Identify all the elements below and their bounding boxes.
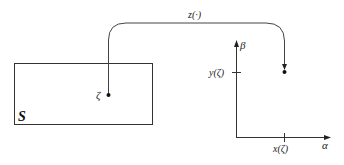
x-tick-label: x(ζ): [272, 143, 289, 155]
set-label: S: [18, 109, 26, 124]
mapping-arrow: [109, 23, 285, 95]
y-tick-label: y(ζ): [208, 67, 225, 79]
image-point-dot: [283, 70, 287, 74]
point-zeta-dot: [107, 93, 111, 97]
beta-label: β: [239, 39, 246, 51]
alpha-label: α: [322, 139, 328, 151]
mapping-label: z(·): [187, 9, 202, 21]
set-s-rectangle: [15, 64, 153, 125]
mapping-arrowhead-icon: [282, 64, 287, 70]
beta-axis-arrow-icon: [234, 40, 239, 47]
point-label: ζ: [96, 89, 102, 102]
mapping-diagram: S ζ z(·) β α y(ζ) x(ζ): [0, 0, 344, 165]
